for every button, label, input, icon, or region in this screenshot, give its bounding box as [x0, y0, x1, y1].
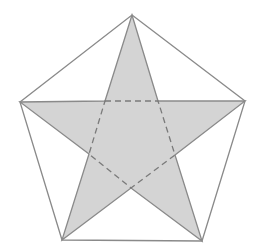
shaded-star	[20, 15, 245, 241]
pentagon-pentagram-diagram	[0, 0, 253, 251]
